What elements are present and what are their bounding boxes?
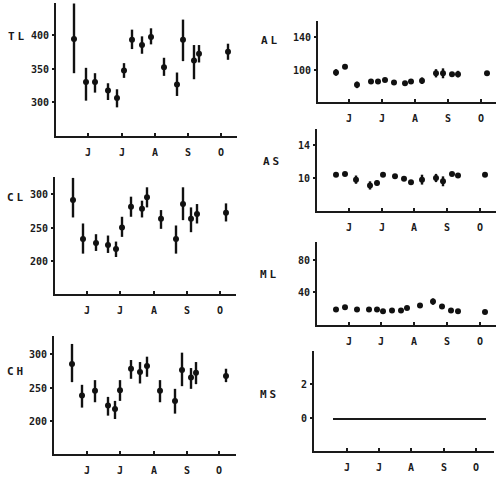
data-point bbox=[417, 303, 423, 309]
data-point bbox=[391, 79, 397, 85]
data-point bbox=[484, 70, 490, 76]
data-point bbox=[137, 369, 143, 375]
data-point bbox=[157, 388, 163, 394]
data-point bbox=[161, 64, 167, 70]
data-point bbox=[342, 64, 348, 70]
data-point bbox=[194, 211, 200, 217]
data-point bbox=[129, 37, 135, 43]
x-tick-label: A bbox=[151, 465, 157, 476]
data-point bbox=[128, 366, 134, 372]
data-point bbox=[223, 373, 229, 379]
panel-label: ML bbox=[260, 268, 279, 281]
x-tick-label: J bbox=[119, 147, 125, 158]
data-point bbox=[419, 78, 425, 84]
data-point bbox=[433, 70, 439, 76]
data-point bbox=[174, 82, 180, 88]
data-point bbox=[70, 197, 76, 203]
data-point bbox=[398, 307, 404, 313]
data-point bbox=[114, 95, 120, 101]
x-tick-label: J bbox=[376, 462, 382, 473]
data-point bbox=[196, 51, 202, 57]
panel-tl: TL300350400JJASO bbox=[8, 3, 237, 158]
x-tick-label: S bbox=[185, 147, 191, 158]
panel-label: CH bbox=[7, 365, 26, 378]
data-point bbox=[225, 49, 231, 55]
data-point bbox=[368, 79, 374, 85]
data-point bbox=[113, 246, 119, 252]
x-tick-label: A bbox=[152, 147, 158, 158]
y-tick-label: 100 bbox=[293, 65, 311, 76]
data-point bbox=[193, 370, 199, 376]
y-tick-label: 250 bbox=[29, 383, 47, 394]
panel-label: CL bbox=[7, 191, 26, 204]
axis-lines bbox=[316, 129, 496, 212]
y-tick-label: 350 bbox=[31, 64, 49, 75]
x-tick-label: A bbox=[411, 222, 417, 233]
y-tick-label: 200 bbox=[30, 256, 48, 267]
data-point bbox=[402, 80, 408, 86]
x-tick-label: J bbox=[117, 465, 123, 476]
x-tick-label: J bbox=[379, 113, 385, 124]
data-point bbox=[144, 194, 150, 200]
panel-cl: CL200250300JJASO bbox=[7, 177, 236, 316]
data-point bbox=[119, 225, 125, 231]
data-point bbox=[408, 79, 414, 85]
data-point bbox=[401, 176, 407, 182]
data-point bbox=[342, 304, 348, 310]
data-point bbox=[158, 216, 164, 222]
data-point bbox=[455, 173, 461, 179]
x-tick-label: J bbox=[346, 336, 352, 347]
x-tick-label: J bbox=[346, 222, 352, 233]
x-tick-label: J bbox=[117, 305, 123, 316]
data-point bbox=[223, 210, 229, 216]
y-tick-label: 2 bbox=[301, 379, 307, 390]
data-point bbox=[333, 307, 339, 313]
x-tick-label: J bbox=[378, 336, 384, 347]
panel-ml: ML4080JJASO bbox=[260, 242, 496, 347]
x-tick-label: J bbox=[344, 462, 350, 473]
data-point bbox=[482, 172, 488, 178]
x-tick-label: O bbox=[477, 222, 483, 233]
data-point bbox=[342, 171, 348, 177]
axis-lines bbox=[317, 21, 496, 103]
data-point bbox=[179, 367, 185, 373]
y-tick-label: 14 bbox=[298, 140, 310, 151]
data-point bbox=[430, 299, 436, 305]
x-tick-label: J bbox=[85, 147, 91, 158]
panel-ms: MS02JJASO bbox=[260, 351, 494, 473]
data-point bbox=[105, 242, 111, 248]
x-tick-label: O bbox=[478, 113, 484, 124]
data-point bbox=[354, 307, 360, 313]
data-point bbox=[440, 178, 446, 184]
x-tick-label: A bbox=[151, 305, 157, 316]
data-point bbox=[112, 406, 118, 412]
panel-label: MS bbox=[260, 388, 279, 401]
x-tick-label: J bbox=[84, 305, 90, 316]
y-tick-label: 250 bbox=[30, 223, 48, 234]
x-tick-label: O bbox=[217, 305, 223, 316]
y-tick-label: 200 bbox=[29, 416, 47, 427]
data-point bbox=[71, 36, 77, 42]
y-tick-label: 10 bbox=[298, 173, 310, 184]
data-point bbox=[380, 308, 386, 314]
data-point bbox=[333, 69, 339, 75]
data-point bbox=[191, 57, 197, 63]
data-point bbox=[366, 307, 372, 313]
data-point bbox=[180, 37, 186, 43]
panel-label: TL bbox=[8, 30, 27, 43]
data-point bbox=[83, 79, 89, 85]
y-tick-label: 0 bbox=[301, 413, 307, 424]
y-tick-label: 300 bbox=[29, 349, 47, 360]
data-point bbox=[382, 77, 388, 83]
panel-label: AL bbox=[261, 34, 280, 47]
x-tick-label: A bbox=[408, 462, 414, 473]
x-tick-label: S bbox=[445, 113, 451, 124]
axis-lines bbox=[54, 177, 236, 295]
data-point bbox=[148, 34, 154, 40]
x-tick-label: S bbox=[444, 336, 450, 347]
x-tick-label: S bbox=[444, 222, 450, 233]
data-point bbox=[144, 363, 150, 369]
data-point bbox=[449, 171, 455, 177]
y-tick-label: 40 bbox=[298, 287, 310, 298]
data-point bbox=[440, 70, 446, 76]
